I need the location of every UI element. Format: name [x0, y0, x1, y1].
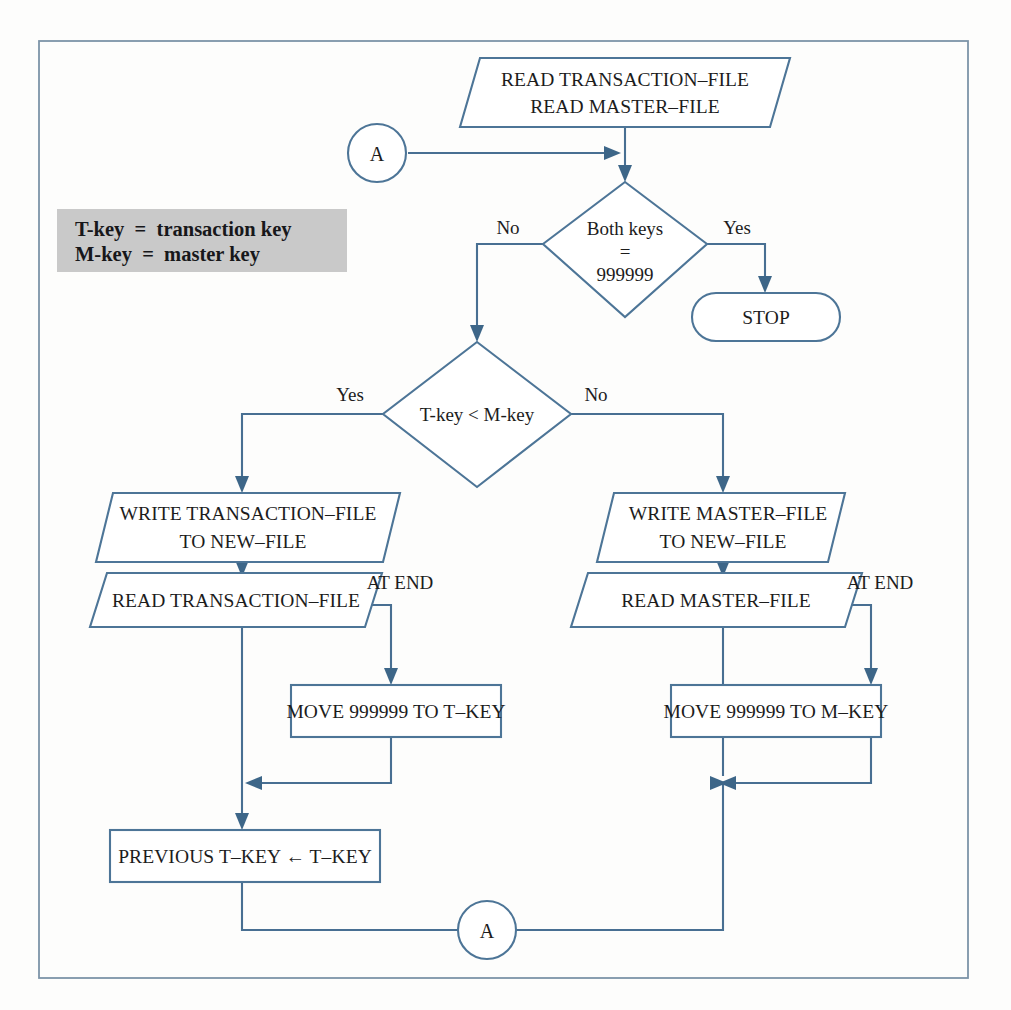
edge-label-both-keys-yes: Yes [723, 217, 751, 238]
node-previous-t-key[interactable]: PREVIOUS T–KEY ← T–KEY [110, 830, 380, 882]
node-move-m-key-label: MOVE 999999 TO M–KEY [664, 701, 889, 722]
edge-label-compare-no: No [584, 384, 607, 405]
node-connector-a-top-label: A [370, 143, 385, 165]
node-read-files-line1: READ TRANSACTION–FILE [501, 69, 749, 90]
node-decision-both-keys-line3: 999999 [597, 264, 654, 285]
node-decision-both-keys[interactable]: Both keys = 999999 [543, 182, 707, 317]
node-write-transaction-line2: TO NEW–FILE [180, 531, 307, 552]
node-connector-a-top[interactable]: A [348, 124, 406, 182]
node-write-master-line1: WRITE MASTER–FILE [629, 503, 827, 524]
node-read-transaction[interactable]: READ TRANSACTION–FILE [90, 573, 382, 627]
node-move-t-key-label: MOVE 999999 TO T–KEY [286, 701, 505, 722]
edge-label-compare-yes: Yes [336, 384, 364, 405]
node-connector-a-bottom-label: A [480, 920, 495, 942]
node-read-master-label: READ MASTER–FILE [621, 590, 811, 611]
node-write-transaction-line1: WRITE TRANSACTION–FILE [120, 503, 377, 524]
flowchart-canvas: READ TRANSACTION–FILE READ MASTER–FILE A… [0, 0, 1011, 1010]
node-move-t-key[interactable]: MOVE 999999 TO T–KEY [286, 685, 505, 737]
node-stop-label: STOP [742, 307, 790, 328]
node-write-master-line2: TO NEW–FILE [660, 531, 787, 552]
node-write-master[interactable]: WRITE MASTER–FILE TO NEW–FILE [597, 493, 845, 562]
node-decision-compare-label: T-key < M-key [420, 404, 535, 425]
node-decision-both-keys-line2: = [620, 241, 631, 262]
node-previous-t-key-label: PREVIOUS T–KEY ← T–KEY [118, 846, 372, 867]
node-decision-compare[interactable]: T-key < M-key [383, 342, 571, 487]
node-write-transaction[interactable]: WRITE TRANSACTION–FILE TO NEW–FILE [96, 493, 400, 562]
node-stop[interactable]: STOP [692, 293, 840, 341]
node-move-m-key[interactable]: MOVE 999999 TO M–KEY [664, 685, 889, 737]
node-read-master[interactable]: READ MASTER–FILE [571, 573, 862, 627]
flowchart-page: READ TRANSACTION–FILE READ MASTER–FILE A… [0, 0, 1011, 1010]
legend-box: T-key = transaction key M-key = master k… [57, 209, 347, 272]
node-read-files-line2: READ MASTER–FILE [530, 96, 720, 117]
node-read-transaction-label: READ TRANSACTION–FILE [112, 590, 360, 611]
edge-label-at-end-right: AT END [847, 572, 914, 593]
edge-label-at-end-left: AT END [367, 572, 434, 593]
edge-label-both-keys-no: No [496, 217, 519, 238]
node-decision-both-keys-line1: Both keys [587, 218, 664, 239]
legend-line-1: T-key = transaction key [75, 217, 292, 242]
node-connector-a-bottom[interactable]: A [458, 901, 516, 959]
legend-line-2: M-key = master key [75, 242, 260, 267]
node-read-files[interactable]: READ TRANSACTION–FILE READ MASTER–FILE [460, 58, 790, 127]
